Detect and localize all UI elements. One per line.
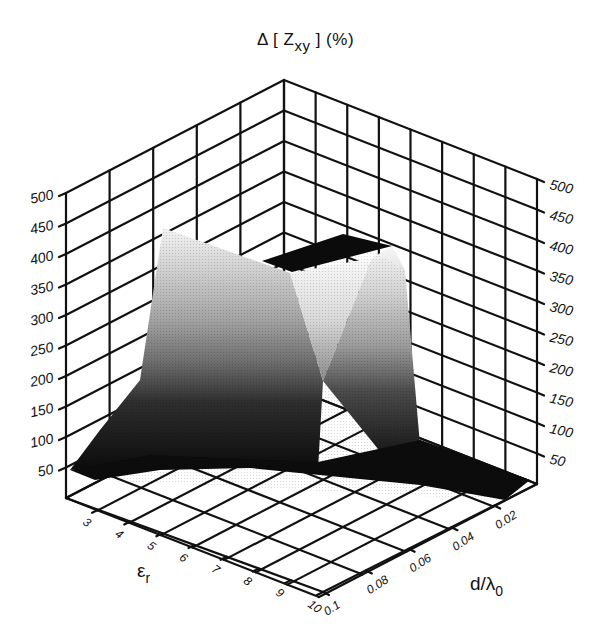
z-tick-label-left: 200: [27, 369, 54, 390]
z-tick-label-left: 450: [28, 217, 54, 238]
z-tick-label-left: 500: [28, 186, 54, 207]
z-tick-label-left: 300: [28, 308, 54, 329]
x-tick-label: 5: [145, 538, 159, 553]
y-tick-label: 0.02: [492, 507, 519, 532]
z-tick-label-left: 150: [28, 400, 54, 421]
z-tick-label-left: 50: [36, 461, 55, 480]
z-tick-label-right: 400: [548, 237, 574, 258]
z-tick-label-left: 250: [27, 339, 54, 360]
grid-line: [66, 80, 284, 193]
z-tick-label-right: 200: [547, 359, 574, 380]
z-tick-label-left: 400: [28, 247, 54, 268]
x-axis-label: εr: [137, 560, 150, 586]
x-tick-label: 3: [80, 515, 94, 530]
z-tick-label-right: 50: [548, 451, 567, 470]
z-tick-label-right: 500: [548, 176, 574, 197]
z-tick-label-right: 350: [548, 268, 574, 289]
x-tick-label: 8: [241, 573, 255, 588]
z-tick-label-right: 100: [548, 420, 574, 441]
z-tick-label-right: 150: [548, 390, 574, 411]
plot-area: 5050100100150150200200250250300300350350…: [0, 0, 611, 637]
y-tick-label: 0.08: [364, 572, 391, 597]
grid-line: [66, 111, 284, 224]
y-tick-label: 0.06: [407, 551, 434, 576]
surface-chart: Δ [ Zxy ] (%): [0, 0, 611, 637]
y-axis-label: d/λ0: [470, 573, 503, 599]
z-tick-label-right: 450: [548, 207, 574, 228]
z-tick-label-right: 250: [547, 329, 574, 350]
z-tick-label-left: 350: [28, 278, 54, 299]
y-tick-label: 0.1: [321, 598, 343, 619]
z-tick-label-right: 300: [548, 298, 574, 319]
y-tick-label: 0.04: [449, 529, 476, 554]
z-tick-label-left: 100: [28, 430, 54, 451]
x-tick-label: 9: [273, 585, 287, 600]
x-tick-label: 6: [177, 550, 191, 565]
x-tick-label: 4: [113, 526, 127, 541]
x-tick-label: 7: [209, 562, 224, 578]
